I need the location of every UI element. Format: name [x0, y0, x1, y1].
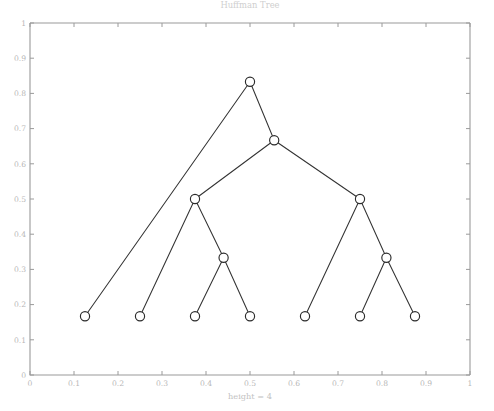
tree-leaf-node	[355, 312, 364, 321]
tree-internal-node	[219, 253, 228, 262]
huffman-tree-plot: 00.10.20.30.40.50.60.70.80.9100.10.20.30…	[0, 0, 494, 411]
tree-edge	[386, 258, 415, 316]
plot-title: Huffman Tree	[220, 0, 279, 10]
y-tick-label: 0.4	[14, 230, 26, 239]
figure-canvas: 00.10.20.30.40.50.60.70.80.9100.10.20.30…	[0, 0, 494, 411]
y-tick-label: 0.7	[14, 124, 26, 133]
y-tick-label: 0.5	[14, 195, 26, 204]
tree-internal-node	[245, 77, 254, 86]
tree-internal-node	[190, 194, 199, 203]
x-tick-label: 0.5	[244, 379, 256, 388]
tree-edge	[360, 199, 386, 258]
tree-internal-node	[382, 253, 391, 262]
tree-edge	[274, 140, 360, 199]
x-tick-label: 0.4	[200, 379, 212, 388]
tree-edge	[224, 258, 250, 316]
tree-edge	[195, 199, 224, 258]
tree-edge	[195, 140, 274, 199]
y-tick-label: 1	[21, 19, 26, 28]
tree-nodes-layer	[80, 77, 419, 321]
x-axis-label: height = 4	[228, 391, 272, 401]
y-tick-label: 0.1	[14, 336, 26, 345]
axes-layer	[30, 23, 470, 375]
y-tick-label: 0.2	[14, 300, 26, 309]
x-tick-label: 1	[468, 379, 473, 388]
x-tick-label: 0.7	[332, 379, 344, 388]
x-tick-label: 0	[28, 379, 33, 388]
tree-leaf-node	[80, 312, 89, 321]
tree-leaf-node	[245, 312, 254, 321]
tree-edge	[140, 199, 195, 316]
tree-internal-node	[270, 136, 279, 145]
y-tick-label: 0.6	[14, 160, 26, 169]
x-tick-label: 0.2	[112, 379, 124, 388]
y-tick-label: 0.3	[14, 265, 26, 274]
x-tick-label: 0.9	[420, 379, 432, 388]
x-tick-label: 0.1	[68, 379, 80, 388]
y-tick-label: 0	[21, 371, 26, 380]
axis-labels-layer: 00.10.20.30.40.50.60.70.80.9100.10.20.30…	[14, 0, 473, 401]
tree-edge	[85, 82, 250, 316]
tree-edge	[195, 258, 224, 316]
tree-internal-node	[355, 194, 364, 203]
tree-leaf-node	[190, 312, 199, 321]
tree-leaf-node	[410, 312, 419, 321]
y-tick-label: 0.9	[14, 54, 26, 63]
x-tick-label: 0.3	[156, 379, 168, 388]
tree-edge	[250, 82, 274, 140]
x-tick-label: 0.8	[376, 379, 388, 388]
tree-edges-layer	[85, 82, 415, 316]
tree-edge	[305, 199, 360, 316]
tree-edge	[360, 258, 386, 316]
axis-spines	[30, 23, 470, 375]
y-tick-label: 0.8	[14, 89, 26, 98]
tree-leaf-node	[135, 312, 144, 321]
x-tick-label: 0.6	[288, 379, 300, 388]
tree-leaf-node	[300, 312, 309, 321]
